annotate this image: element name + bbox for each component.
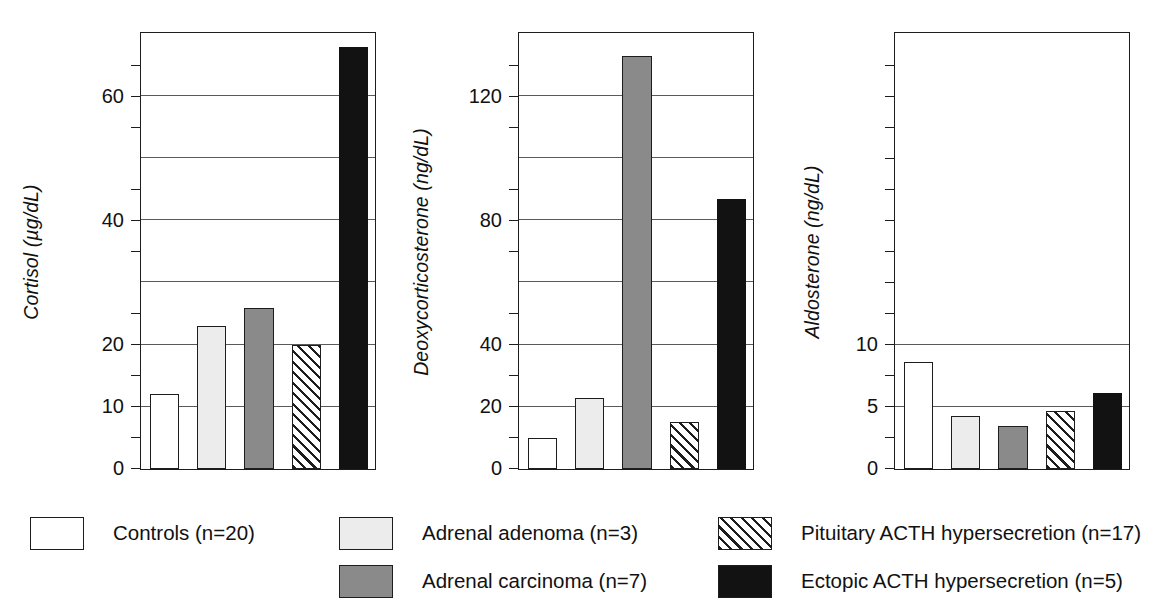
y-axis-tick-label: 60 [102, 86, 124, 106]
legend-label-adrenal-adenoma: Adrenal adenoma (n=3) [422, 521, 638, 545]
legend-row: Controls (n=20) Adrenal adenoma (n=3) Pi… [0, 510, 1171, 556]
y-axis-title-wrap-deoxycorticosterone: Deoxycorticosterone (ng/dL) [408, 32, 438, 472]
y-axis-major-tick [131, 344, 140, 345]
bar-controls [150, 394, 179, 469]
y-axis-tick-label: 0 [113, 458, 124, 478]
bar-controls [904, 362, 933, 469]
y-axis-title-aldosterone: Aldosterone (ng/dL) [799, 32, 825, 472]
legend-item-adrenal-carcinoma[interactable]: Adrenal carcinoma (n=7) [339, 558, 647, 604]
y-axis-minor-tick [885, 251, 894, 252]
y-axis-minor-tick [509, 127, 518, 128]
y-axis-tick-label: 80 [480, 210, 502, 230]
chart-panels: Cortisol (µg/dL) 010204060 Deoxycorticos… [0, 0, 1171, 500]
y-axis-minor-tick [131, 189, 140, 190]
legend-row: Adrenal carcinoma (n=7) Ectopic ACTH hyp… [0, 558, 1171, 604]
y-axis-tick-label: 120 [469, 86, 502, 106]
y-axis-title-deoxycorticosterone: Deoxycorticosterone (ng/dL) [408, 32, 434, 472]
bar-ectopic [339, 47, 368, 469]
y-axis-major-tick [509, 344, 518, 345]
y-axis-tick-label: 40 [102, 210, 124, 230]
y-axis-minor-tick [885, 375, 894, 376]
legend-swatch-adrenal-adenoma-icon [339, 517, 393, 550]
bar-carcinoma [244, 308, 273, 469]
bar-pituitary [1046, 411, 1075, 469]
y-axis-minor-tick [885, 65, 894, 66]
y-axis-minor-tick [885, 96, 894, 97]
bar-carcinoma [998, 426, 1027, 469]
legend-swatch-ectopic-acth-icon [718, 565, 772, 598]
y-axis-minor-tick [509, 189, 518, 190]
y-axis-major-tick [885, 406, 894, 407]
y-axis-minor-tick [131, 437, 140, 438]
y-axis-major-tick [131, 406, 140, 407]
y-axis-major-tick [131, 468, 140, 469]
chart-panel-aldosterone: Aldosterone (ng/dL) 0510 [781, 0, 1171, 500]
y-axis-title-wrap-aldosterone: Aldosterone (ng/dL) [799, 32, 829, 472]
figure-root: Cortisol (µg/dL) 010204060 Deoxycorticos… [0, 0, 1171, 610]
y-axis-minor-tick [131, 65, 140, 66]
plot-area-aldosterone [894, 32, 1130, 470]
plot-area-deoxycorticosterone [518, 32, 754, 470]
y-axis-minor-tick [885, 220, 894, 221]
y-axis-minor-tick [509, 437, 518, 438]
bar-pituitary [292, 345, 321, 469]
y-axis-minor-tick [131, 313, 140, 314]
y-axis-minor-tick [885, 313, 894, 314]
y-axis-major-tick [509, 468, 518, 469]
y-axis-major-tick [885, 468, 894, 469]
y-axis-major-tick [509, 220, 518, 221]
legend-item-ectopic-acth[interactable]: Ectopic ACTH hypersecretion (n=5) [718, 558, 1123, 604]
legend-swatch-pituitary-acth-icon [718, 517, 772, 550]
y-axis-major-tick [509, 406, 518, 407]
y-axis-tick-label: 0 [491, 458, 502, 478]
legend-label-pituitary-acth: Pituitary ACTH hypersecretion (n=17) [801, 521, 1141, 545]
chart-panel-cortisol: Cortisol (µg/dL) 010204060 [0, 0, 390, 500]
y-axis-title-cortisol: Cortisol (µg/dL) [18, 32, 44, 472]
legend: Controls (n=20) Adrenal adenoma (n=3) Pi… [0, 500, 1171, 610]
gridline [895, 344, 1129, 345]
y-axis-minor-tick [885, 282, 894, 283]
legend-label-controls: Controls (n=20) [113, 521, 255, 545]
y-axis-minor-tick [885, 437, 894, 438]
y-axis-minor-tick [509, 65, 518, 66]
bar-adenoma [575, 398, 604, 469]
y-axis-tick-label: 0 [867, 458, 878, 478]
bar-controls [528, 438, 557, 469]
y-axis-major-tick [509, 96, 518, 97]
legend-item-adrenal-adenoma[interactable]: Adrenal adenoma (n=3) [339, 510, 638, 556]
y-axis-minor-tick [509, 375, 518, 376]
y-axis-minor-tick [131, 127, 140, 128]
y-axis-tick-label: 20 [102, 334, 124, 354]
bar-adenoma [951, 416, 980, 469]
y-axis-minor-tick [885, 127, 894, 128]
chart-panel-deoxycorticosterone: Deoxycorticosterone (ng/dL) 0204080120 [390, 0, 780, 500]
bar-pituitary [670, 422, 699, 469]
y-axis-major-tick [131, 96, 140, 97]
bar-carcinoma [622, 56, 651, 469]
legend-item-pituitary-acth[interactable]: Pituitary ACTH hypersecretion (n=17) [718, 510, 1141, 556]
y-axis-tick-label: 20 [480, 396, 502, 416]
y-axis-minor-tick [131, 375, 140, 376]
y-axis-tick-label: 10 [856, 334, 878, 354]
legend-swatch-adrenal-carcinoma-icon [339, 565, 393, 598]
y-axis-minor-tick [509, 313, 518, 314]
legend-item-controls[interactable]: Controls (n=20) [30, 510, 255, 556]
plot-area-cortisol [140, 32, 376, 470]
legend-label-ectopic-acth: Ectopic ACTH hypersecretion (n=5) [801, 569, 1123, 593]
y-axis-tick-label: 5 [867, 396, 878, 416]
y-axis-tick-label: 10 [102, 396, 124, 416]
y-axis-tick-label: 40 [480, 334, 502, 354]
y-axis-minor-tick [509, 251, 518, 252]
y-axis-minor-tick [885, 189, 894, 190]
bar-ectopic [1093, 393, 1122, 469]
bar-adenoma [197, 326, 226, 469]
bar-ectopic [717, 199, 746, 469]
y-axis-major-tick [131, 220, 140, 221]
legend-swatch-controls-icon [30, 517, 84, 550]
y-axis-title-wrap-cortisol: Cortisol (µg/dL) [18, 32, 48, 472]
y-axis-minor-tick [131, 251, 140, 252]
legend-label-adrenal-carcinoma: Adrenal carcinoma (n=7) [422, 569, 647, 593]
y-axis-major-tick [885, 344, 894, 345]
y-axis-minor-tick [885, 158, 894, 159]
